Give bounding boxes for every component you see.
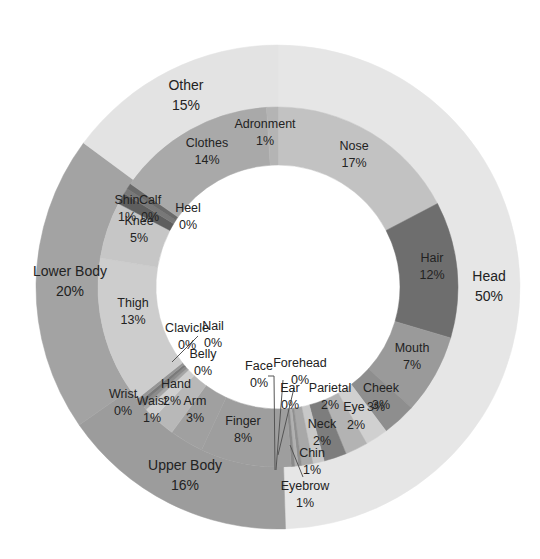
label-name: Mouth [395,341,430,355]
label-percent: 1% [296,496,314,510]
label-percent: 16% [171,477,199,493]
label-name: Lower Body [33,263,107,279]
label-name: Other [168,77,203,93]
data-label-face: Face0% [245,359,273,390]
label-percent: 17% [341,156,366,170]
data-label-value: 2% [347,418,365,432]
label-name: Cheek [363,381,400,395]
label-percent: 0% [250,376,268,390]
label-percent: 0% [291,373,309,387]
label-name: Clavicle [165,321,209,335]
label-percent: 1% [256,134,274,148]
label-name: Calf [139,193,162,207]
label-percent: 3% [367,400,385,414]
data-label-hand: Hand [161,377,191,391]
label-name: Nose [339,139,368,153]
label-percent: 0% [179,218,197,232]
label-percent: 8% [234,431,252,445]
data-label-heel: Heel0% [175,201,201,232]
label-name: Head [472,268,505,284]
label-name: Hair [421,251,444,265]
label-name: Chin [299,446,325,460]
label-name: Thigh [117,296,148,310]
data-label-value: 3% [367,400,385,414]
nested-donut-chart: Head50%Upper Body16%Lower Body20%Other15… [0,0,540,559]
label-percent: 0% [194,364,212,378]
label-percent: 15% [172,97,200,113]
label-percent: 1% [118,210,136,224]
label-percent: 2% [321,398,339,412]
label-percent: 1% [303,463,321,477]
label-name: Shin [114,193,139,207]
label-name: Waist [137,394,168,408]
label-name: Finger [225,414,260,428]
data-label-eye: Eye [343,400,365,414]
label-percent: 50% [475,288,503,304]
label-percent: 0% [114,404,132,418]
label-percent: 0% [141,210,159,224]
label-percent: 7% [403,358,421,372]
label-percent: 14% [194,153,219,167]
label-name: Neck [308,417,337,431]
label-name: Clothes [186,136,228,150]
label-name: Arm [184,394,207,408]
label-percent: 13% [120,313,145,327]
label-percent: 12% [419,268,444,282]
label-name: Adronment [234,117,296,131]
label-percent: 20% [56,283,84,299]
label-percent: 5% [130,231,148,245]
label-percent: 0% [204,336,222,350]
label-name: Parietal [309,381,351,395]
label-name: Upper Body [148,457,222,473]
label-percent: 2% [347,418,365,432]
label-percent: 0% [281,398,299,412]
label-name: Eye [343,400,365,414]
label-name: Face [245,359,273,373]
label-percent: 1% [143,411,161,425]
label-name: Hand [161,377,191,391]
label-percent: 3% [186,411,204,425]
label-name: Forehead [273,356,327,370]
label-name: Heel [175,201,201,215]
label-percent: 0% [178,338,196,352]
label-name: Eyebrow [281,479,331,493]
label-name: Wrist [109,387,138,401]
